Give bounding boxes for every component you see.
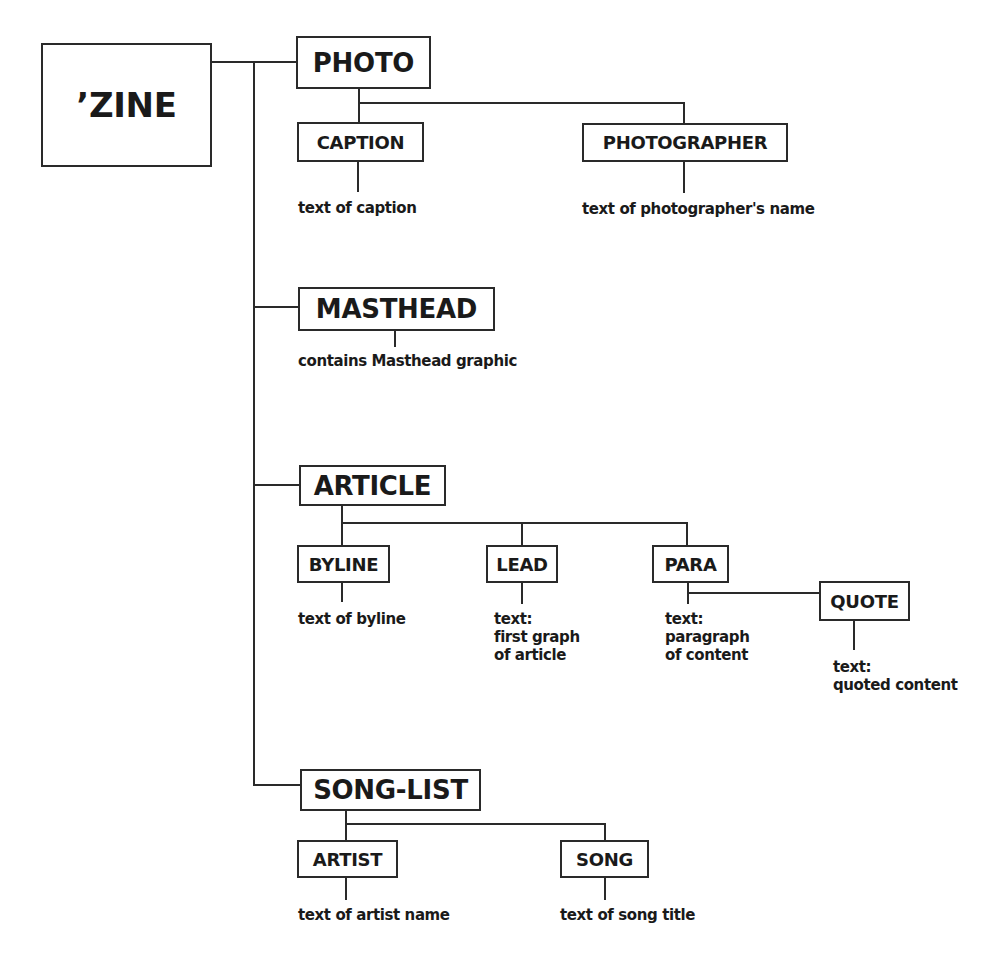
connector-photographer-desc: [683, 160, 685, 193]
node-label: SONG-LIST: [313, 775, 468, 805]
connector-trunk-article: [253, 484, 300, 486]
connector-lead-desc: [521, 582, 523, 604]
node-photographer: PHOTOGRAPHER: [582, 123, 788, 162]
masthead-description: contains Masthead graphic: [298, 352, 517, 370]
node-caption: CAPTION: [297, 122, 424, 162]
connector-photographer-up: [683, 102, 685, 124]
connector-photo-down: [358, 88, 360, 123]
connector-lead-up: [521, 522, 523, 546]
byline-description: text of byline: [298, 610, 406, 628]
node-label: QUOTE: [830, 591, 898, 612]
connector-article-down: [341, 505, 343, 546]
node-label: SONG: [576, 849, 633, 870]
connector-byline-desc: [341, 582, 343, 602]
lead-description: text: first graph of article: [494, 610, 580, 664]
connector-para-quote: [687, 592, 820, 594]
quote-description: text: quoted content: [833, 658, 958, 694]
para-description: text: paragraph of content: [665, 610, 749, 664]
node-label: BYLINE: [309, 554, 379, 575]
connector-trunk-songlist: [253, 784, 301, 786]
node-label: CAPTION: [317, 132, 405, 153]
song-description: text of song title: [560, 906, 695, 924]
node-label: LEAD: [496, 554, 547, 575]
connector-masthead-desc: [394, 330, 396, 347]
node-quote: QUOTE: [819, 581, 910, 621]
caption-description: text of caption: [298, 199, 417, 217]
node-label: PHOTOGRAPHER: [603, 132, 768, 153]
node-para: PARA: [652, 545, 729, 583]
node-label: MASTHEAD: [316, 294, 477, 324]
node-label: ARTICLE: [314, 471, 432, 501]
node-song: SONG: [560, 840, 649, 878]
node-label: ARTIST: [313, 849, 382, 870]
node-article: ARTICLE: [299, 465, 446, 506]
node-song-list: SONG-LIST: [300, 769, 481, 811]
node-label: PHOTO: [313, 48, 414, 78]
node-lead: LEAD: [486, 545, 558, 583]
artist-description: text of artist name: [298, 906, 450, 924]
connector-caption-desc: [357, 160, 359, 192]
connector-artist-desc: [345, 876, 347, 900]
connector-photo-branch: [358, 102, 685, 104]
node-photo: PHOTO: [296, 36, 431, 89]
connector-trunk: [253, 61, 255, 786]
connector-song-up: [604, 823, 606, 841]
connector-para-up: [686, 522, 688, 546]
node-label: PARA: [664, 554, 716, 575]
node-masthead: MASTHEAD: [298, 287, 495, 331]
connector-songlist-down: [345, 810, 347, 841]
node-byline: BYLINE: [297, 545, 390, 583]
connector-article-branch: [341, 522, 688, 524]
photographer-description: text of photographer's name: [582, 200, 814, 218]
node-artist: ARTIST: [297, 840, 398, 878]
node-label: ’ZINE: [76, 85, 176, 125]
connector-quote-desc: [853, 619, 855, 650]
connector-songlist-branch: [345, 823, 606, 825]
node-zine-root: ’ZINE: [41, 43, 212, 167]
connector-trunk-masthead: [253, 306, 299, 308]
connector-song-desc: [604, 876, 606, 900]
